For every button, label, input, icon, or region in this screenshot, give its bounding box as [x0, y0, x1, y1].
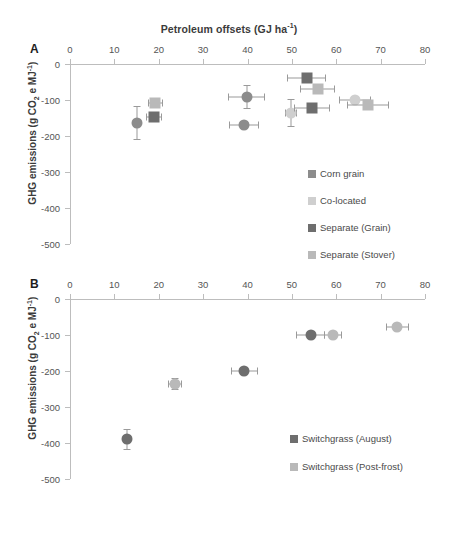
data-point-marker[interactable] — [239, 120, 250, 131]
y-axis-tick — [65, 100, 70, 101]
panel-a: A GHG emissions (g CO2 e MJ-1) 010203040… — [0, 38, 458, 270]
x-axis-tick-label: 80 — [420, 279, 431, 290]
y-axis-tick — [65, 443, 70, 444]
data-point-marker[interactable] — [306, 102, 317, 113]
y-axis-tick — [65, 172, 70, 173]
x-axis-tick — [292, 59, 293, 64]
data-point-marker[interactable] — [328, 330, 339, 341]
x-axis-tick-label: 10 — [109, 279, 120, 290]
chart-title: Petroleum offsets (GJ ha-1) — [0, 22, 458, 35]
data-point-marker[interactable] — [150, 97, 161, 108]
x-axis-tick — [70, 59, 71, 64]
ylabel-sub-a: 2 — [33, 96, 40, 100]
legend-item[interactable]: Switchgrass (Post-frost) — [290, 461, 403, 472]
data-point-marker[interactable] — [312, 83, 323, 94]
x-axis-tick-label: 50 — [287, 279, 298, 290]
data-point-marker[interactable] — [169, 378, 180, 389]
ylabel-head-a: GHG emissions (g CO — [27, 100, 38, 204]
y-axis-tick-label: -500 — [41, 474, 60, 485]
data-point-marker[interactable] — [285, 107, 296, 118]
data-point-marker[interactable] — [149, 112, 160, 123]
x-axis-tick — [114, 59, 115, 64]
data-point-marker[interactable] — [305, 330, 316, 341]
x-axis-tick-label: 40 — [242, 279, 253, 290]
panel-a-plot-area: 010203040506070800-100-200-300-400-500 — [70, 64, 425, 244]
ylabel-sup-b: -1 — [26, 300, 33, 306]
data-point-marker[interactable] — [132, 117, 143, 128]
figure-container: Petroleum offsets (GJ ha-1) A GHG emissi… — [0, 0, 458, 534]
data-point-marker[interactable] — [121, 434, 132, 445]
legend-swatch-icon — [308, 170, 316, 178]
legend-label: Separate (Grain) — [320, 222, 391, 233]
x-axis-tick — [248, 59, 249, 64]
x-axis-tick — [336, 59, 337, 64]
x-axis-tick-label: 70 — [375, 44, 386, 55]
panel-a-x-axis — [70, 64, 425, 65]
legend-label: Switchgrass (August) — [302, 433, 392, 444]
legend-label: Switchgrass (Post-frost) — [302, 461, 403, 472]
legend-swatch-icon — [308, 224, 316, 232]
y-axis-tick-label: 0 — [55, 294, 60, 305]
ylabel-mid-a: e MJ — [27, 71, 38, 96]
x-axis-tick-label: 20 — [153, 44, 164, 55]
y-axis-tick — [65, 371, 70, 372]
y-axis-tick-label: -300 — [41, 402, 60, 413]
ylabel-mid-b: e MJ — [27, 306, 38, 331]
ylabel-sub-b: 2 — [33, 331, 40, 335]
y-axis-tick — [65, 407, 70, 408]
x-axis-tick-label: 70 — [375, 279, 386, 290]
legend-swatch-icon — [308, 251, 316, 259]
data-point-marker[interactable] — [392, 322, 403, 333]
x-axis-tick — [425, 59, 426, 64]
legend-swatch-icon — [290, 463, 298, 471]
legend-label: Corn grain — [320, 168, 364, 179]
x-axis-tick-label: 0 — [67, 279, 72, 290]
y-axis-tick-label: -200 — [41, 366, 60, 377]
legend-swatch-icon — [308, 197, 316, 205]
x-axis-tick-label: 30 — [198, 44, 209, 55]
ylabel-sup-a: -1 — [26, 65, 33, 71]
y-axis-tick — [65, 299, 70, 300]
y-axis-tick-label: -300 — [41, 167, 60, 178]
x-axis-tick — [381, 59, 382, 64]
legend-item[interactable]: Co-located — [308, 195, 366, 206]
data-point-marker[interactable] — [239, 366, 250, 377]
legend-item[interactable]: Separate (Grain) — [308, 222, 391, 233]
panel-b-plot-area: 010203040506070800-100-200-300-400-500 — [70, 299, 425, 479]
y-axis-tick — [65, 479, 70, 480]
x-axis-tick — [292, 294, 293, 299]
legend-item[interactable]: Switchgrass (August) — [290, 433, 392, 444]
x-axis-tick — [425, 294, 426, 299]
x-axis-tick — [381, 294, 382, 299]
x-axis-tick-label: 10 — [109, 44, 120, 55]
x-axis-tick — [114, 294, 115, 299]
legend-item[interactable]: Corn grain — [308, 168, 364, 179]
x-axis-tick — [203, 59, 204, 64]
x-axis-tick — [70, 294, 71, 299]
x-axis-tick — [248, 294, 249, 299]
data-point-marker[interactable] — [301, 72, 312, 83]
ylabel-tail-b: ) — [27, 297, 38, 300]
panel-b-x-axis — [70, 299, 425, 300]
x-axis-tick-label: 80 — [420, 44, 431, 55]
y-axis-tick-label: -200 — [41, 131, 60, 142]
y-axis-tick-label: -400 — [41, 438, 60, 449]
data-point-marker[interactable] — [363, 100, 374, 111]
data-point-marker[interactable] — [349, 94, 360, 105]
panel-a-y-axis-label: GHG emissions (g CO2 e MJ-1) — [26, 38, 40, 228]
x-axis-tick-label: 60 — [331, 44, 342, 55]
ylabel-head-b: GHG emissions (g CO — [27, 335, 38, 439]
panel-b: B GHG emissions (g CO2 e MJ-1) 010203040… — [0, 273, 458, 508]
panel-b-y-axis-label: GHG emissions (g CO2 e MJ-1) — [26, 273, 40, 463]
x-axis-tick-label: 0 — [67, 44, 72, 55]
y-axis-tick — [65, 208, 70, 209]
y-axis-tick — [65, 64, 70, 65]
x-axis-tick-label: 40 — [242, 44, 253, 55]
data-point-marker[interactable] — [241, 92, 252, 103]
y-axis-tick-label: -100 — [41, 95, 60, 106]
legend-item[interactable]: Separate (Stover) — [308, 249, 395, 260]
x-axis-tick — [159, 294, 160, 299]
ylabel-tail-a: ) — [27, 62, 38, 65]
legend-label: Co-located — [320, 195, 366, 206]
legend-swatch-icon — [290, 435, 298, 443]
